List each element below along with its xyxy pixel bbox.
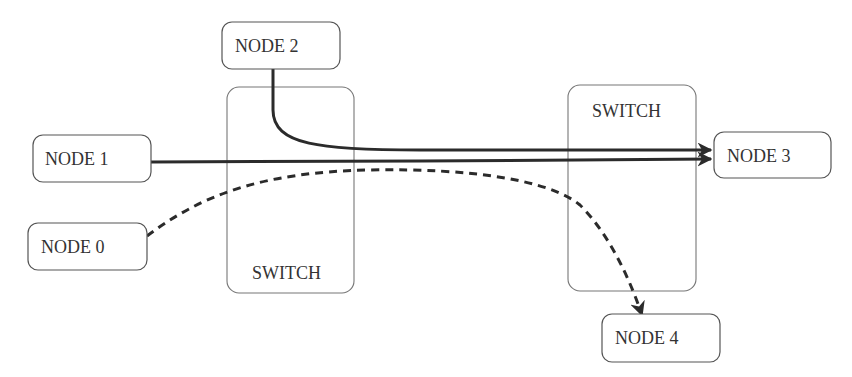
node-4: NODE 4 <box>602 314 720 362</box>
network-diagram: SWITCH SWITCH NODE 2 NODE 1 NODE 0 NODE … <box>0 0 852 377</box>
switch-left-label: SWITCH <box>252 263 321 283</box>
node-0-label: NODE 0 <box>41 237 105 257</box>
node-4-label: NODE 4 <box>615 328 679 348</box>
flow-node1-to-node3 <box>151 159 711 162</box>
node-1: NODE 1 <box>33 135 151 182</box>
node-2: NODE 2 <box>222 22 340 69</box>
switch-right-label: SWITCH <box>592 101 661 121</box>
node-2-label: NODE 2 <box>235 36 299 56</box>
node-3: NODE 3 <box>714 132 831 178</box>
node-3-label: NODE 3 <box>727 146 791 166</box>
node-0: NODE 0 <box>28 223 147 270</box>
switch-right: SWITCH <box>568 85 696 291</box>
switch-left: SWITCH <box>227 87 354 293</box>
node-1-label: NODE 1 <box>45 149 109 169</box>
